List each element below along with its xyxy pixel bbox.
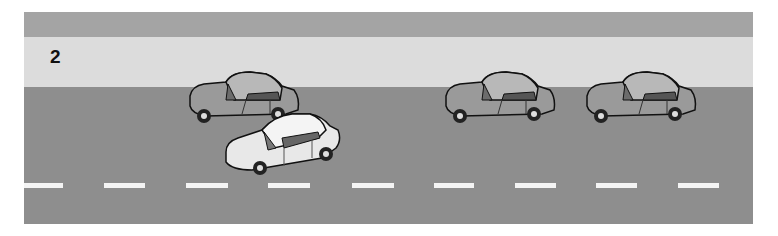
lane-dash: [186, 183, 228, 188]
figure-label: 2: [50, 46, 61, 68]
top-band: [24, 12, 753, 37]
lane-dash: [515, 183, 556, 188]
lane-dash: [104, 183, 145, 188]
lane-dash: [596, 183, 637, 188]
lane-dash: [352, 183, 394, 188]
road-scene: 2: [24, 12, 753, 224]
lane-dash: [268, 183, 310, 188]
lane-dash: [24, 183, 63, 188]
lane-dash: [678, 183, 719, 188]
car-parked-2: [442, 70, 558, 128]
car-merging: [222, 108, 342, 178]
car-parked-3: [583, 70, 699, 128]
lane-dash: [434, 183, 474, 188]
